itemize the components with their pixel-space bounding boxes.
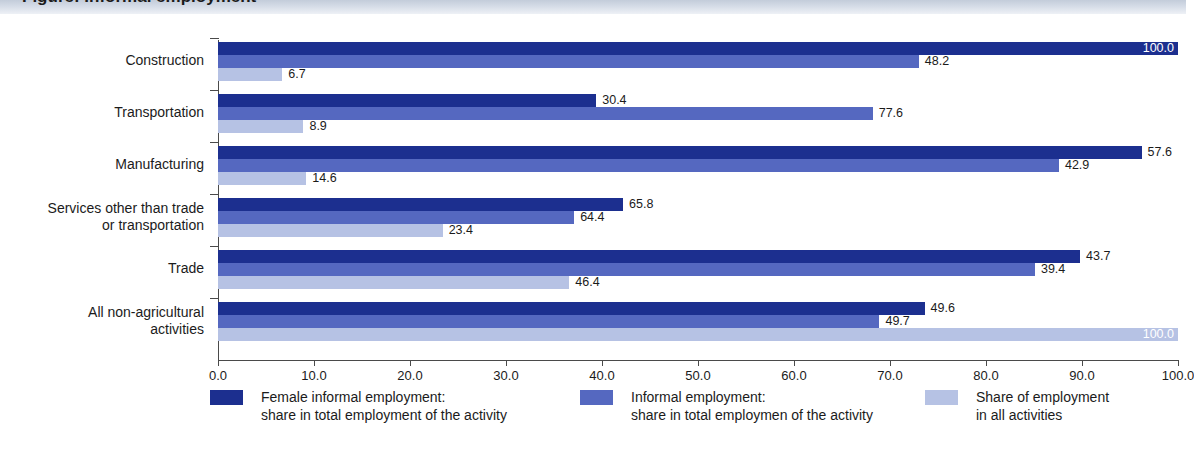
bar-series-2	[218, 172, 306, 185]
bar-series-1	[218, 159, 1059, 172]
legend-item-0[interactable]: Female informal employment: share in tot…	[210, 388, 507, 424]
x-axis-tick-label: 90.0	[1069, 368, 1094, 383]
legend-label-1: Informal employment: share in total empl…	[631, 388, 873, 424]
x-axis-tick-label: 40.0	[589, 368, 614, 383]
bar-value-label: 23.4	[449, 224, 473, 237]
bar-series-2	[218, 224, 443, 237]
bar-series-0	[218, 302, 925, 315]
bar-value-label: 14.6	[312, 172, 336, 185]
bar-series-0	[218, 42, 1178, 55]
bar-value-label: 49.6	[931, 302, 955, 315]
x-axis-tick-label: 30.0	[493, 368, 518, 383]
x-axis-tick-label: 0.0	[209, 368, 227, 383]
x-axis-tick	[314, 360, 315, 366]
x-axis-tick-label: 100.0	[1162, 368, 1194, 383]
bar-series-1	[218, 55, 919, 68]
plot-region: 100.048.26.730.477.68.957.642.914.665.86…	[218, 40, 1178, 360]
bar-value-label: 43.7	[1086, 250, 1110, 263]
bar-value-label: 49.7	[885, 315, 909, 328]
bar-group: 43.739.446.4	[218, 250, 1178, 289]
bar-series-2	[218, 276, 569, 289]
bar-value-label: 65.8	[629, 198, 653, 211]
category-label-4: Trade	[0, 260, 204, 277]
legend-item-1[interactable]: Informal employment: share in total empl…	[580, 388, 873, 424]
x-axis-tick-label: 20.0	[397, 368, 422, 383]
legend-label-2: Share of employment in all activities	[976, 388, 1109, 424]
x-axis-tick	[794, 360, 795, 366]
x-axis-tick-label: 10.0	[301, 368, 326, 383]
bar-group: 30.477.68.9	[218, 94, 1178, 133]
y-axis-tick	[210, 38, 219, 39]
chart-legend: Female informal employment: share in tot…	[0, 388, 1186, 452]
bar-value-label: 46.4	[575, 276, 599, 289]
x-axis-tick	[1178, 360, 1179, 366]
bar-series-0	[218, 198, 623, 211]
bar-value-label: 8.9	[309, 120, 326, 133]
x-axis-tick	[602, 360, 603, 366]
legend-swatch-1	[580, 390, 613, 405]
category-label-5: All non-agricultural activities	[0, 304, 204, 338]
bar-value-label: 64.4	[580, 211, 604, 224]
category-label-0: Construction	[0, 52, 204, 69]
bar-series-2	[218, 328, 1178, 341]
x-axis-tick	[698, 360, 699, 366]
legend-swatch-2	[925, 390, 958, 405]
title-band: Figure: Informal employment	[0, 0, 1186, 14]
x-axis-tick-label: 70.0	[877, 368, 902, 383]
x-axis-tick-label: 80.0	[973, 368, 998, 383]
bar-value-label: 6.7	[288, 68, 305, 81]
bar-series-2	[218, 120, 303, 133]
legend-swatch-0	[210, 390, 243, 405]
bar-series-2	[218, 68, 282, 81]
bar-value-label: 42.9	[1065, 159, 1089, 172]
bar-group: 100.048.26.7	[218, 42, 1178, 81]
legend-label-0: Female informal employment: share in tot…	[261, 388, 507, 424]
page-title: Figure: Informal employment	[22, 0, 256, 7]
x-axis-tick	[986, 360, 987, 366]
bar-value-label: 100.0	[1143, 42, 1174, 55]
bar-value-label: 48.2	[925, 55, 949, 68]
chart-area: 0.010.020.030.040.050.060.070.080.090.01…	[0, 14, 1186, 452]
bar-series-0	[218, 94, 596, 107]
bar-series-0	[218, 146, 1142, 159]
legend-item-2[interactable]: Share of employment in all activities	[925, 388, 1109, 424]
x-axis-tick	[218, 360, 219, 366]
x-axis-tick	[410, 360, 411, 366]
bar-value-label: 100.0	[1143, 328, 1174, 341]
bar-value-label: 30.4	[602, 94, 626, 107]
bar-group: 57.642.914.6	[218, 146, 1178, 185]
x-axis-tick-label: 60.0	[781, 368, 806, 383]
x-axis-tick	[1082, 360, 1083, 366]
bar-value-label: 77.6	[879, 107, 903, 120]
bar-series-1	[218, 263, 1035, 276]
x-axis-tick	[506, 360, 507, 366]
bar-group: 65.864.423.4	[218, 198, 1178, 237]
category-label-2: Manufacturing	[0, 156, 204, 173]
bar-series-1	[218, 315, 879, 328]
x-axis-tick-label: 50.0	[685, 368, 710, 383]
bar-value-label: 57.6	[1148, 146, 1172, 159]
bar-series-0	[218, 250, 1080, 263]
bar-value-label: 39.4	[1041, 263, 1065, 276]
category-label-3: Services other than trade or transportat…	[0, 200, 204, 234]
bar-group: 49.649.7100.0	[218, 302, 1178, 341]
category-label-1: Transportation	[0, 104, 204, 121]
x-axis-tick	[890, 360, 891, 366]
bar-series-1	[218, 211, 574, 224]
